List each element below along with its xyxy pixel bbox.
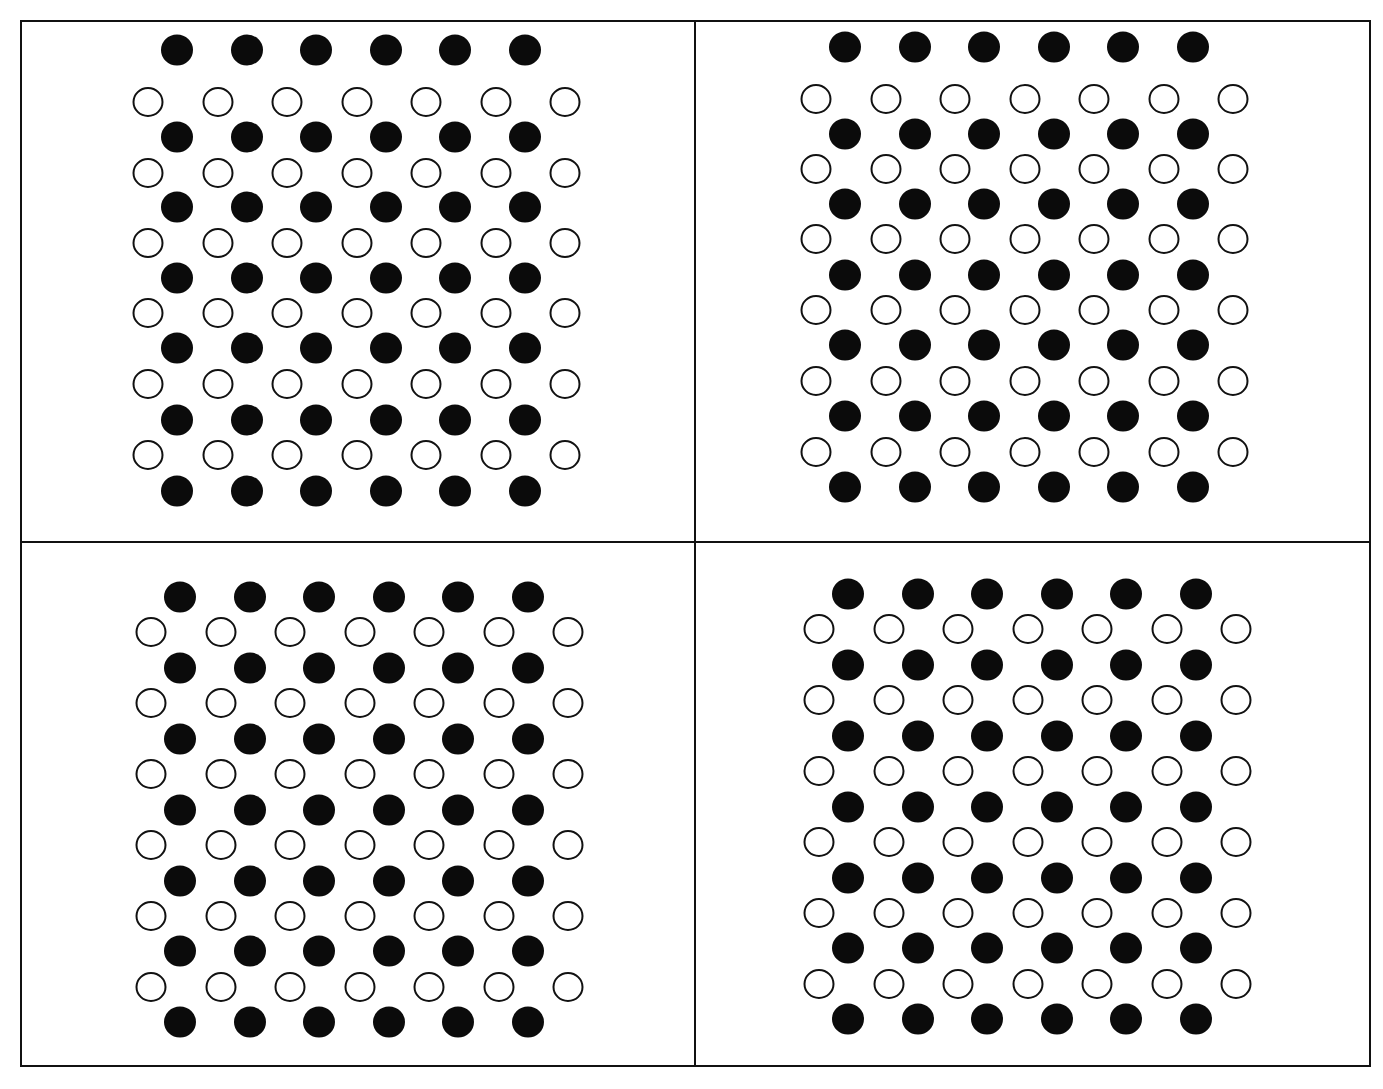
open-circle-icon	[1012, 898, 1043, 928]
filled-circle-icon	[373, 936, 405, 967]
open-circle-icon	[414, 688, 445, 718]
open-circle-icon	[553, 688, 584, 718]
open-circle-icon	[870, 84, 901, 114]
open-circle-icon	[133, 298, 164, 328]
open-circle-icon	[1221, 685, 1252, 715]
open-circle-icon	[1079, 84, 1110, 114]
filled-circle-icon	[1041, 721, 1073, 752]
filled-circle-icon	[512, 653, 544, 684]
open-circle-icon	[1221, 898, 1252, 928]
filled-circle-icon	[902, 650, 934, 681]
open-circle-icon	[550, 228, 581, 258]
filled-circle-icon	[1038, 119, 1070, 150]
open-circle-icon	[1151, 614, 1182, 644]
open-circle-icon	[344, 972, 375, 1002]
filled-circle-icon	[971, 721, 1003, 752]
open-circle-icon	[414, 617, 445, 647]
filled-circle-icon	[231, 476, 263, 507]
filled-circle-icon	[370, 263, 402, 294]
filled-circle-icon	[1177, 401, 1209, 432]
filled-circle-icon	[164, 936, 196, 967]
open-circle-icon	[414, 830, 445, 860]
open-circle-icon	[940, 154, 971, 184]
open-circle-icon	[873, 685, 904, 715]
filled-circle-icon	[512, 866, 544, 897]
open-circle-icon	[133, 228, 164, 258]
filled-circle-icon	[1041, 863, 1073, 894]
open-circle-icon	[873, 756, 904, 786]
filled-circle-icon	[1177, 472, 1209, 503]
open-circle-icon	[1218, 84, 1249, 114]
filled-circle-icon	[829, 260, 861, 291]
open-circle-icon	[136, 901, 167, 931]
filled-circle-icon	[1180, 650, 1212, 681]
open-circle-icon	[1079, 224, 1110, 254]
open-circle-icon	[202, 87, 233, 117]
open-circle-icon	[1082, 827, 1113, 857]
open-circle-icon	[804, 969, 835, 999]
open-circle-icon	[1148, 154, 1179, 184]
filled-circle-icon	[968, 401, 1000, 432]
filled-circle-icon	[231, 122, 263, 153]
open-circle-icon	[1151, 898, 1182, 928]
open-circle-icon	[275, 972, 306, 1002]
open-circle-icon	[341, 298, 372, 328]
filled-circle-icon	[1177, 32, 1209, 63]
filled-circle-icon	[370, 122, 402, 153]
open-circle-icon	[801, 295, 832, 325]
open-circle-icon	[136, 759, 167, 789]
filled-circle-icon	[1041, 792, 1073, 823]
filled-circle-icon	[300, 263, 332, 294]
open-circle-icon	[870, 366, 901, 396]
filled-circle-icon	[509, 476, 541, 507]
open-circle-icon	[341, 369, 372, 399]
filled-circle-icon	[512, 936, 544, 967]
open-circle-icon	[344, 759, 375, 789]
filled-circle-icon	[512, 582, 544, 613]
open-circle-icon	[414, 901, 445, 931]
open-circle-icon	[136, 972, 167, 1002]
open-circle-icon	[1218, 437, 1249, 467]
filled-circle-icon	[442, 866, 474, 897]
filled-circle-icon	[370, 35, 402, 66]
open-circle-icon	[550, 440, 581, 470]
filled-circle-icon	[1110, 863, 1142, 894]
filled-circle-icon	[300, 476, 332, 507]
open-circle-icon	[1218, 366, 1249, 396]
filled-circle-icon	[234, 1007, 266, 1038]
filled-circle-icon	[971, 579, 1003, 610]
filled-circle-icon	[164, 724, 196, 755]
open-circle-icon	[344, 901, 375, 931]
open-circle-icon	[272, 228, 303, 258]
filled-circle-icon	[234, 936, 266, 967]
open-circle-icon	[272, 369, 303, 399]
open-circle-icon	[943, 969, 974, 999]
open-circle-icon	[205, 901, 236, 931]
filled-circle-icon	[968, 119, 1000, 150]
filled-circle-icon	[234, 653, 266, 684]
open-circle-icon	[550, 298, 581, 328]
filled-circle-icon	[1038, 189, 1070, 220]
open-circle-icon	[1218, 295, 1249, 325]
filled-circle-icon	[971, 650, 1003, 681]
filled-circle-icon	[829, 119, 861, 150]
filled-circle-icon	[1180, 579, 1212, 610]
open-circle-icon	[341, 87, 372, 117]
open-circle-icon	[411, 440, 442, 470]
filled-circle-icon	[1110, 1004, 1142, 1035]
open-circle-icon	[414, 759, 445, 789]
open-circle-icon	[943, 614, 974, 644]
filled-circle-icon	[832, 1004, 864, 1035]
filled-circle-icon	[902, 579, 934, 610]
filled-circle-icon	[442, 1007, 474, 1038]
filled-circle-icon	[968, 189, 1000, 220]
filled-circle-icon	[1180, 863, 1212, 894]
open-circle-icon	[940, 84, 971, 114]
filled-circle-icon	[231, 192, 263, 223]
filled-circle-icon	[439, 333, 471, 364]
filled-circle-icon	[899, 119, 931, 150]
filled-circle-icon	[829, 472, 861, 503]
open-circle-icon	[943, 756, 974, 786]
open-circle-icon	[480, 228, 511, 258]
filled-circle-icon	[373, 653, 405, 684]
